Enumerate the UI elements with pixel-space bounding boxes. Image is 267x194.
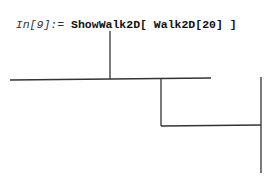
walk-segment <box>161 125 261 126</box>
walk-path <box>10 31 261 173</box>
walk-segment <box>10 79 110 80</box>
walk-plot <box>0 0 267 194</box>
